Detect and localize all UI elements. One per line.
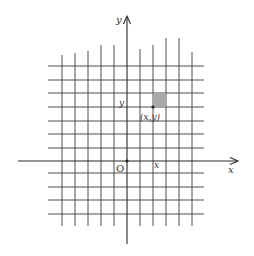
x-coordinate-tick-label: x xyxy=(154,160,159,170)
y-axis-label: y xyxy=(115,14,122,25)
shaded-area-element xyxy=(153,93,166,107)
origin-point xyxy=(126,160,129,163)
x-axis-label: x xyxy=(228,164,234,175)
y-coordinate-tick-label: y xyxy=(118,98,125,108)
point-xy xyxy=(151,105,154,108)
y-axis xyxy=(124,16,131,244)
grid-horizontal-lines xyxy=(48,66,204,214)
coordinate-grid-diagram: y x O x y (x,y) xyxy=(0,0,254,256)
point-xy-label: (x,y) xyxy=(140,112,161,122)
origin-label: O xyxy=(116,163,124,174)
